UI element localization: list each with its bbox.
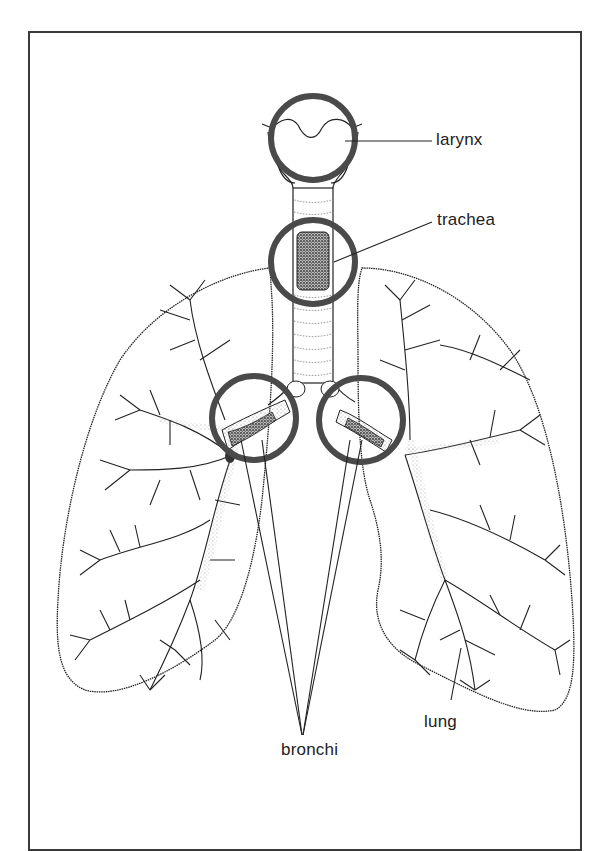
right-lung bbox=[358, 268, 574, 711]
lung-label: lung bbox=[424, 712, 457, 732]
trachea-label: trachea bbox=[437, 210, 495, 230]
leader-lines bbox=[241, 141, 461, 735]
bronchi-leader-line-1 bbox=[241, 440, 302, 735]
bronchi-label: bronchi bbox=[281, 740, 338, 760]
bronchi-leader-line-3 bbox=[303, 440, 350, 735]
left-lung bbox=[57, 268, 272, 692]
lung-leader-line bbox=[451, 648, 461, 700]
larynx-label: larynx bbox=[436, 130, 483, 150]
bronchi-leader-line-2 bbox=[262, 440, 302, 735]
bronchi-leader-line-4 bbox=[303, 440, 362, 735]
larynx-highlight-circle bbox=[271, 96, 355, 180]
right-bronchus bbox=[336, 410, 392, 452]
